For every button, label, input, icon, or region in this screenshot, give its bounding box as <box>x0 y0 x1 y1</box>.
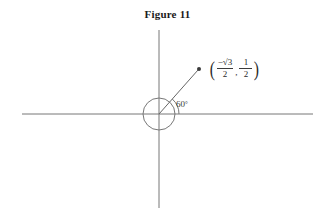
x-denominator: 2 <box>222 69 229 79</box>
open-paren: ( <box>210 59 215 79</box>
x-coordinate-fraction: −√3 2 <box>217 58 234 79</box>
y-denominator: 2 <box>243 69 250 79</box>
angle-label: 60° <box>176 99 188 109</box>
x-numerator: −√3 <box>217 58 234 68</box>
unit-circle-diagram <box>0 0 335 217</box>
coordinate-comma: , <box>235 67 237 79</box>
y-numerator: 1 <box>243 58 250 68</box>
terminal-point-coordinate-label: ( −√3 2 , 1 2 ) <box>209 58 260 79</box>
figure-container: Figure 11 60° ( −√3 2 , 1 2 ) <box>0 0 335 217</box>
y-coordinate-fraction: 1 2 <box>239 58 252 79</box>
degree-symbol: ° <box>185 100 188 108</box>
close-paren: ) <box>254 59 259 79</box>
angle-value: 60 <box>176 99 185 109</box>
terminal-point-dot <box>197 67 201 71</box>
